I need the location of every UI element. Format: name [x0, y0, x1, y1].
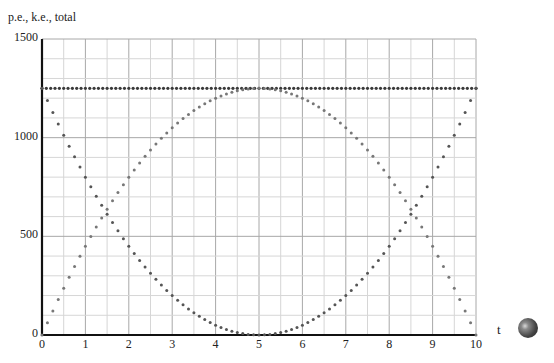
x-tick-label: 5 [249, 337, 269, 352]
y-axis-title: p.e., k.e., total [8, 10, 76, 25]
x-tick-label: 2 [119, 337, 139, 352]
x-tick-label: 1 [75, 337, 95, 352]
x-tick-label: 3 [162, 337, 182, 352]
y-tick-label: 500 [0, 227, 38, 242]
sphere-icon[interactable] [518, 318, 538, 338]
y-tick-label: 1000 [0, 129, 38, 144]
x-axis-title: t [497, 322, 501, 338]
chart-canvas [0, 0, 554, 363]
x-tick-label: 9 [423, 337, 443, 352]
x-tick-label: 4 [206, 337, 226, 352]
x-tick-label: 0 [32, 337, 52, 352]
x-tick-label: 6 [292, 337, 312, 352]
x-tick-label: 10 [466, 337, 486, 352]
y-tick-label: 1500 [0, 30, 38, 45]
x-tick-label: 8 [379, 337, 399, 352]
x-tick-label: 7 [336, 337, 356, 352]
